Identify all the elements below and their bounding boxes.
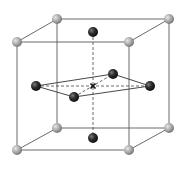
edge-bottom-left-depth [17,128,57,150]
corner-atom [164,14,174,24]
edge-top-right-depth [129,19,169,42]
corner-atom [52,14,62,24]
plane-edge-front-left [36,86,74,97]
plane-edge-left-back [36,74,113,86]
corner-atom [12,37,22,47]
plane-edge-back-right [113,74,150,86]
face-atom-left [31,81,41,91]
edge-top-left-depth [17,19,57,42]
face-atom-right [145,81,155,91]
face-atom-front [69,92,79,102]
face-atom-back [108,69,118,79]
plane-edge-right-front [74,86,150,97]
crystal-unit-cell-diagram [0,0,186,169]
face-atom-bottom [88,133,98,143]
corner-atom [164,123,174,133]
face-atom-top [88,27,98,37]
corner-atom [52,123,62,133]
corner-atom [124,37,134,47]
edge-bottom-right-depth [129,128,169,150]
corner-atom [12,145,22,155]
corner-atom [124,145,134,155]
